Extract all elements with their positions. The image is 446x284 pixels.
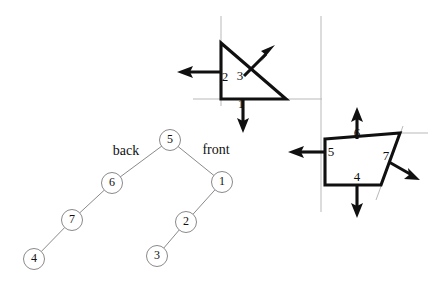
- normal-arrow-3-head: [261, 45, 275, 62]
- normal-arrow-2: [177, 66, 221, 78]
- tree-node-2-label: 2: [183, 214, 189, 228]
- tree-node-4[interactable]: 4: [24, 249, 45, 270]
- tree-node-1[interactable]: 1: [212, 172, 233, 193]
- edge-label-2: 2: [222, 69, 229, 84]
- tree-node-3-label: 3: [154, 248, 160, 262]
- triangle-region-group: [221, 43, 286, 99]
- tree-node-6[interactable]: 6: [102, 173, 123, 194]
- tree-node-4-label: 4: [31, 251, 37, 265]
- diagram-canvas: 2 3 1 6 5 7 4 5 6: [0, 0, 446, 284]
- normal-arrow-5: [288, 146, 325, 158]
- branch-label-front: front: [202, 142, 229, 157]
- triangle-region-outline: [221, 43, 286, 99]
- edge-label-4: 4: [354, 169, 361, 184]
- normal-arrow-3: [244, 45, 275, 76]
- tree-node-5[interactable]: 5: [160, 130, 181, 151]
- edge-label-3: 3: [237, 68, 244, 83]
- tree-node-6-label: 6: [109, 175, 115, 189]
- tree-node-2[interactable]: 2: [176, 212, 197, 233]
- tree-node-5-label: 5: [167, 132, 173, 146]
- tree-node-7[interactable]: 7: [62, 210, 83, 231]
- tree-node-1-label: 1: [219, 174, 225, 188]
- normal-arrow-7: [389, 162, 420, 180]
- edge-label-7: 7: [383, 148, 390, 163]
- normal-arrow-7-head: [404, 168, 420, 180]
- edge-label-5: 5: [328, 144, 335, 159]
- tree-node-3[interactable]: 3: [147, 246, 168, 267]
- branch-label-back: back: [113, 143, 139, 158]
- normal-arrow-7-shaft: [389, 162, 410, 174]
- edge-label-6: 6: [354, 125, 361, 140]
- edge-labels-group: 2 3 1 6 5 7 4: [222, 68, 390, 184]
- edge-label-1: 1: [238, 96, 245, 111]
- normal-arrow-4: [351, 185, 363, 218]
- tree-node-7-label: 7: [69, 212, 75, 226]
- bsp-diagram-root: 2 3 1 6 5 7 4 5 6: [0, 0, 446, 284]
